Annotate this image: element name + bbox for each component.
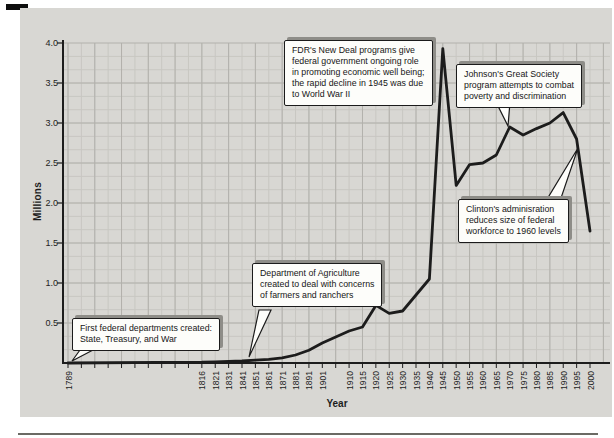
annotation-agriculture: Department of Agriculture created to dea… — [252, 263, 382, 307]
x-tick-label: 1945 — [438, 371, 448, 390]
y-tick-label: 2.5 — [32, 158, 58, 168]
annotation-pointer-clinton — [546, 148, 578, 201]
x-tick-label: 1831 — [224, 371, 234, 390]
x-tick-label: 1789 — [64, 371, 74, 390]
annotation-clinton: Clinton's adminisration reduces size of … — [458, 199, 569, 243]
figure-page: 1789181618211831184118511861187118811891… — [0, 0, 614, 438]
annotation-fdr-new-deal: FDR's New Deal programs give federal gov… — [284, 40, 433, 106]
x-tick-label: 1935 — [412, 371, 422, 390]
x-tick-label: 1881 — [291, 371, 301, 390]
x-tick-label: 1910 — [345, 371, 355, 390]
y-tick-label: 4.0 — [32, 38, 58, 48]
x-tick-label: 1955 — [465, 371, 475, 390]
x-tick-label: 1841 — [238, 371, 248, 390]
x-tick-label: 1950 — [452, 371, 462, 390]
x-tick-label: 1965 — [492, 371, 502, 390]
y-tick-label: 3.0 — [32, 118, 58, 128]
annotation-first-departments: First federal departments created: State… — [72, 318, 220, 351]
x-tick-label: 1930 — [398, 371, 408, 390]
x-tick-label: 1975 — [519, 371, 529, 390]
x-tick-label: 1871 — [278, 371, 288, 390]
annotation-johnson-great-society: Johnson's Great Society program attempts… — [456, 64, 582, 108]
x-tick-label: 1891 — [304, 371, 314, 390]
x-tick-label: 1970 — [505, 371, 515, 390]
x-tick-label: 1960 — [478, 371, 488, 390]
y-tick-label: 1.0 — [32, 278, 58, 288]
x-tick-label: 1816 — [197, 371, 207, 390]
x-tick-label: 1980 — [532, 371, 542, 390]
y-tick-label: 2.0 — [32, 198, 58, 208]
x-tick-label: 2000 — [586, 371, 596, 390]
x-tick-label: 1985 — [545, 371, 555, 390]
x-tick-label: 1851 — [251, 371, 261, 390]
y-tick-label: 3.5 — [32, 78, 58, 88]
x-tick-label: 1861 — [264, 371, 274, 390]
x-tick-label: 1920 — [371, 371, 381, 390]
x-tick-label: 1901 — [318, 371, 328, 390]
x-tick-label: 1940 — [425, 371, 435, 390]
x-tick-label: 1995 — [572, 371, 582, 390]
annotation-pointer-first-departments — [72, 350, 93, 361]
x-tick-label: 1925 — [385, 371, 395, 390]
x-tick-label: 1915 — [358, 371, 368, 390]
x-tick-label: 1990 — [559, 371, 569, 390]
y-tick-label: 1.5 — [32, 238, 58, 248]
x-axis-title: Year — [0, 398, 614, 409]
y-tick-label: 0.5 — [32, 318, 58, 328]
x-tick-label: 1821 — [211, 371, 221, 390]
